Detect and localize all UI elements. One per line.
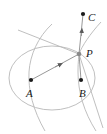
segment-P-to-C (79, 14, 83, 54)
arrowhead-P-to-C (81, 30, 82, 36)
point-label-B: B (79, 88, 86, 99)
point-P-marker (77, 52, 82, 57)
point-label-P: P (86, 48, 93, 59)
point-B-marker (79, 78, 83, 82)
point-label-A: A (26, 88, 33, 99)
arrowhead-A-to-P (55, 64, 61, 67)
point-label-C: C (88, 12, 95, 23)
point-A-marker (29, 78, 33, 82)
geometry-figure: A B C P (0, 0, 107, 134)
hyperbola-left-branch (29, 24, 52, 131)
point-C-marker (81, 12, 85, 16)
tangent-line-upper-left (18, 30, 79, 54)
